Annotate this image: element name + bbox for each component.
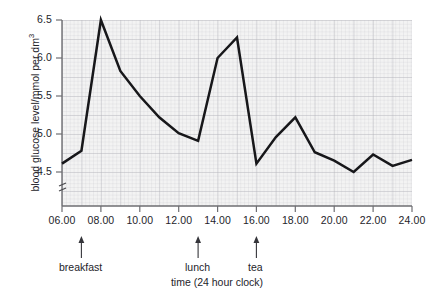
x-tick-label-6: 18.00 <box>275 214 315 226</box>
x-tick-marks <box>62 206 412 212</box>
chart-figure: 6.5 6.0 5.5 5.0 4.5 06.00 08.00 10.00 12… <box>0 0 434 298</box>
lunch-arrow <box>195 236 201 258</box>
glucose-line-series <box>62 20 412 172</box>
x-tick-label-4: 14.00 <box>198 214 238 226</box>
x-tick-label-8: 22.00 <box>353 214 393 226</box>
chart-canvas <box>0 0 434 298</box>
annotation-label-lunch: lunch <box>185 261 210 273</box>
tea-arrow <box>254 236 260 258</box>
x-tick-label-5: 16.00 <box>236 214 276 226</box>
y-axis-title-text: blood glucose level/mmol per dm <box>29 38 41 192</box>
x-tick-label-7: 20.00 <box>314 214 354 226</box>
x-tick-label-2: 10.00 <box>120 214 160 226</box>
x-tick-label-9: 24.00 <box>392 214 432 226</box>
x-axis-title: time (24 hour clock) <box>0 276 434 288</box>
y-axis-title: blood glucose level/mmol per dm3 <box>27 17 41 209</box>
x-tick-label-3: 12.00 <box>159 214 199 226</box>
x-tick-label-0: 06.00 <box>42 214 82 226</box>
x-tick-label-1: 08.00 <box>81 214 121 226</box>
annotation-label-tea: tea <box>248 261 263 273</box>
y-tick-marks <box>56 20 62 172</box>
annotation-label-breakfast: breakfast <box>59 261 102 273</box>
y-axis-title-exponent: 3 <box>27 34 36 38</box>
annotation-arrows <box>79 236 260 258</box>
breakfast-arrow <box>79 236 85 258</box>
